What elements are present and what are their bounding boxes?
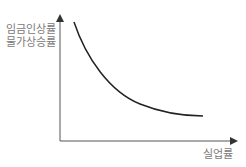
y-axis-label-price: 물가상승률 bbox=[6, 33, 56, 49]
x-axis-label-unemployment: 실업률 bbox=[203, 145, 233, 161]
phillips-curve bbox=[74, 22, 203, 116]
